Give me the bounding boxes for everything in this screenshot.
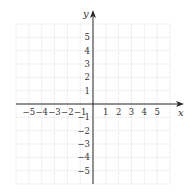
y-tick-label: 2: [85, 72, 90, 82]
x-tick-label: −4: [35, 107, 48, 117]
y-tick-label: −1: [77, 112, 90, 122]
x-tick-label: 4: [142, 107, 147, 117]
x-tick-label: −2: [61, 107, 74, 117]
x-tick-label: 2: [116, 107, 121, 117]
y-tick-label: −5: [77, 166, 90, 176]
x-tick-label: −3: [48, 107, 61, 117]
y-tick-label: 4: [85, 46, 90, 56]
y-tick-label: −4: [77, 152, 90, 162]
y-tick-label: 1: [85, 86, 90, 96]
x-tick-label: 1: [103, 107, 108, 117]
y-tick-label: −2: [77, 126, 90, 136]
x-tick-label: −5: [23, 107, 36, 117]
x-axis-label: x: [178, 107, 184, 118]
x-tick-label: 3: [129, 107, 134, 117]
y-tick-label: 5: [85, 32, 90, 42]
x-tick-label: 5: [154, 107, 159, 117]
coordinate-plane: −5−4−3−2−112345 54321−1−2−3−4−5 x y: [0, 0, 193, 195]
y-tick-label: −3: [77, 139, 90, 149]
axes: [16, 10, 184, 184]
x-tick-labels: −5−4−3−2−112345: [23, 107, 160, 117]
y-axis-label: y: [82, 8, 89, 19]
y-tick-label: 3: [85, 59, 90, 69]
